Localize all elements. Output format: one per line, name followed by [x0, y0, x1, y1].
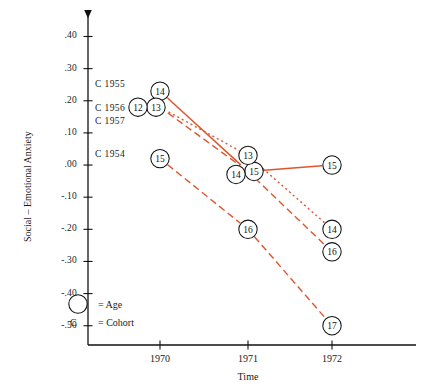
- legend-age-text: = Age: [98, 299, 122, 310]
- svg-text:13: 13: [151, 103, 161, 113]
- cohort-label: C 1955: [95, 79, 125, 89]
- svg-text:14: 14: [327, 225, 337, 235]
- data-point-age-marker: 16: [323, 243, 341, 261]
- y-tick-label: -.30: [43, 255, 77, 265]
- series-line: [258, 166, 322, 171]
- data-point-age-marker: 16: [239, 220, 257, 238]
- x-tick-label: 1971: [218, 353, 278, 364]
- svg-text:14: 14: [155, 87, 165, 97]
- y-tick-label: .10: [43, 127, 77, 137]
- cohort-label: C 1957: [95, 116, 125, 126]
- cohort-label: C 1954: [95, 149, 125, 159]
- y-tick-label: .00: [43, 159, 77, 169]
- cohort-label: C 1956: [95, 103, 125, 113]
- data-point-age-marker: 12: [129, 98, 147, 116]
- y-tick-label: -.10: [43, 191, 77, 201]
- svg-text:16: 16: [243, 225, 253, 235]
- data-point-age-marker: 17: [323, 317, 341, 335]
- data-point-age-marker: 15: [323, 156, 341, 174]
- series-line: [255, 162, 324, 223]
- data-point-age-marker: 13: [147, 98, 165, 116]
- y-tick-label: .20: [43, 95, 77, 105]
- svg-text:15: 15: [249, 167, 259, 177]
- y-tick-label: -.40: [43, 288, 77, 298]
- legend-cohort-symbol: C: [70, 317, 77, 328]
- svg-text:12: 12: [133, 103, 143, 113]
- data-point-age-marker: 15: [151, 149, 169, 167]
- y-tick-label: .30: [43, 63, 77, 73]
- series-line: [169, 112, 240, 151]
- svg-text:15: 15: [155, 154, 165, 164]
- series-line: [168, 113, 240, 166]
- data-point-age-marker: 14: [323, 220, 341, 238]
- svg-text:15: 15: [327, 161, 337, 171]
- data-point-age-marker: 14: [151, 82, 169, 100]
- chart-figure: 141515131416121314151617 Social – Emotio…: [0, 0, 424, 390]
- svg-text:14: 14: [231, 170, 241, 180]
- data-point-age-marker: 13: [239, 146, 257, 164]
- x-tick-label: 1970: [130, 353, 190, 364]
- data-point-age-marker: 14: [227, 165, 245, 183]
- y-tick-label: .40: [43, 30, 77, 40]
- x-tick-label: 1972: [302, 353, 362, 364]
- legend-cohort-text: = Cohort: [98, 317, 134, 328]
- series-line: [255, 178, 325, 245]
- y-tick-label: -.20: [43, 223, 77, 233]
- series-line: [254, 237, 325, 319]
- x-axis-title: Time: [188, 371, 308, 382]
- svg-text:13: 13: [243, 151, 253, 161]
- y-axis-title: Social – Emotional Anxiety: [22, 131, 33, 242]
- svg-text:16: 16: [327, 247, 337, 257]
- svg-text:17: 17: [327, 321, 337, 331]
